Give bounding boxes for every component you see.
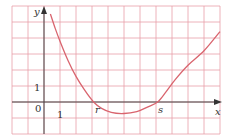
y-axis-label: y	[33, 6, 40, 17]
x-axis-label: x	[215, 106, 221, 117]
grid-lines	[12, 6, 220, 134]
s-label: s	[158, 104, 163, 115]
y-tick-label-1: 1	[34, 82, 40, 93]
origin-label: 0	[35, 103, 41, 114]
r-label: r	[95, 104, 101, 115]
x-axis-arrow-icon	[214, 99, 222, 105]
graph-canvas: y x 0 1 1 r s	[0, 0, 233, 139]
x-tick-label-1: 1	[57, 109, 63, 120]
y-axis-arrow-icon	[41, 6, 47, 14]
graph-figure: y x 0 1 1 r s	[0, 0, 233, 139]
